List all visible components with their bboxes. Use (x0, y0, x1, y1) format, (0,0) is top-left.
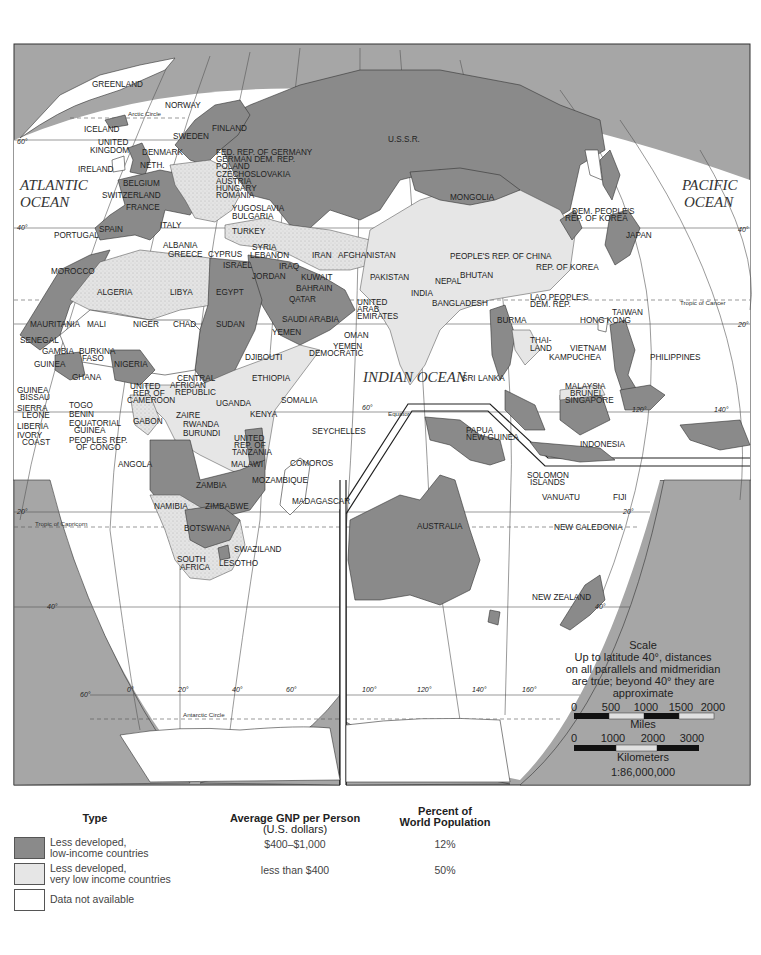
label-lebanon: LEBANON (250, 251, 289, 260)
label-mauritania: MAURITANIA (30, 320, 80, 329)
label-togo: TOGO (69, 401, 93, 410)
label-nigeria: NIGERIA (114, 360, 148, 369)
label-zambia: ZAMBIA (196, 481, 227, 490)
label-jordan: JORDAN (252, 272, 286, 281)
label-denmark: DENMARK (142, 148, 183, 157)
label-mali: MALI (87, 320, 106, 329)
label-vietnam: VIETNAM (570, 344, 607, 353)
svg-text:2000: 2000 (641, 732, 665, 744)
label-djibouti: DJIBOUTI (245, 353, 282, 362)
label-bahrain: BAHRAIN (296, 284, 332, 293)
svg-text:0: 0 (571, 701, 577, 713)
label-rwanda: RWANDA (183, 420, 219, 429)
label-laos-2: DEM. REP. (530, 300, 571, 309)
label-israel: ISRAEL (223, 261, 253, 270)
svg-text:100°: 100° (362, 686, 377, 693)
atlantic-ocean-label-2: OCEAN (20, 194, 70, 210)
label-dprk-2: REP. OF KOREA (565, 214, 628, 223)
label-zaire: ZAIRE (176, 411, 201, 420)
svg-text:1000: 1000 (601, 732, 625, 744)
legend-pop-low-income: 12% (415, 838, 475, 850)
svg-text:20°: 20° (737, 321, 749, 328)
label-kuwait: KUWAIT (301, 273, 333, 282)
legend-gnp-header: Average GNP per Person (U.S. dollars) (225, 813, 365, 835)
svg-text:40°: 40° (595, 603, 606, 610)
svg-text:140°: 140° (472, 686, 487, 693)
label-guinea-bissau-2: BISSAU (20, 393, 50, 402)
antarctic-circle-label: Antarctic Circle (183, 711, 225, 718)
label-sudan: SUDAN (216, 320, 245, 329)
label-italy: ITALY (160, 221, 182, 230)
svg-text:0: 0 (571, 732, 577, 744)
label-bhutan: BHUTAN (460, 271, 493, 280)
svg-text:500: 500 (602, 701, 620, 713)
label-liberia: LIBERIA (17, 422, 49, 431)
label-switzerland: SWITZERLAND (102, 191, 161, 200)
label-seychelles: SEYCHELLES (312, 427, 366, 436)
label-ireland: IRELAND (78, 165, 114, 174)
tropic-cancer-label: Tropic of Cancer (680, 299, 726, 306)
label-ghana: GHANA (72, 373, 102, 382)
svg-text:40°: 40° (232, 686, 243, 693)
label-png-2: NEW GUINEA (466, 433, 519, 442)
legend-label-no-data: Data not available (50, 894, 134, 905)
label-turkey: TURKEY (232, 227, 266, 236)
legend-pop-very-low-income: 50% (415, 864, 475, 876)
label-botswana: BOTSWANA (184, 524, 231, 533)
atlantic-ocean-label-1: ATLANTIC (19, 177, 89, 193)
label-rok: REP. OF KOREA (536, 263, 599, 272)
label-belgium: BELGIUM (123, 179, 160, 188)
pacific-ocean-label-2: OCEAN (684, 194, 734, 210)
label-malawi: MALAWI (231, 460, 263, 469)
svg-text:0°: 0° (127, 686, 134, 693)
scale-note-4: approximate (613, 687, 674, 699)
label-morocco: MOROCCO (51, 267, 95, 276)
legend-swatch-very-low-income (14, 863, 45, 885)
label-congo-2: OF CONGO (76, 443, 121, 452)
label-comoros: COMOROS (290, 459, 334, 468)
label-lesotho: LESOTHO (219, 559, 258, 568)
label-iran: IRAN (312, 251, 332, 260)
label-pakistan: PAKISTAN (370, 273, 409, 282)
scale-note-3: are true; beyond 40° they are (572, 675, 715, 687)
legend-gnp-low-income: $400–$1,000 (255, 838, 335, 850)
svg-text:60°: 60° (362, 404, 373, 411)
label-hong-kong: HONG KONG (580, 316, 631, 325)
label-swaziland: SWAZILAND (234, 545, 282, 554)
scale-km-label: Kilometers (617, 751, 669, 763)
label-uk-2: KINGDOM (90, 146, 129, 155)
legend-label-low-income: Less developed,low-income countries (50, 837, 149, 859)
label-eq-guinea-2: GUINEA (74, 426, 106, 435)
legend-swatch-low-income (14, 837, 45, 859)
svg-text:20°: 20° (177, 686, 189, 693)
label-romania: ROMANIA (216, 191, 255, 200)
svg-text:3000: 3000 (680, 732, 704, 744)
label-ussr: U.S.S.R. (388, 135, 420, 144)
legend-label-very-low-income: Less developed,very low income countries (50, 863, 171, 885)
legend: Type Average GNP per Person (U.S. dollar… (0, 795, 761, 955)
svg-text:120°: 120° (632, 406, 647, 413)
svg-text:120°: 120° (417, 686, 432, 693)
label-france: FRANCE (126, 203, 160, 212)
svg-text:40°: 40° (47, 603, 58, 610)
legend-population-header: Percent of World Population (385, 806, 505, 828)
svg-text:2000: 2000 (701, 701, 725, 713)
svg-text:40°: 40° (738, 226, 749, 233)
label-finland: FINLAND (212, 124, 247, 133)
label-greenland: GREENLAND (92, 80, 143, 89)
label-sri-lanka: SRI LANKA (462, 374, 505, 383)
label-solomon-2: ISLANDS (530, 478, 566, 487)
label-spain: SPAIN (99, 225, 123, 234)
svg-text:60°: 60° (286, 686, 297, 693)
label-tanzania-3: TANZANIA (232, 448, 272, 457)
label-ethiopia: ETHIOPIA (252, 374, 291, 383)
label-taiwan: TAIWAN (612, 308, 643, 317)
label-philippines: PHILIPPINES (650, 353, 701, 362)
label-car-3: REPUBLIC (175, 388, 216, 397)
legend-swatch-no-data (14, 889, 45, 911)
svg-text:1000: 1000 (634, 701, 658, 713)
label-singapore: SINGAPORE (565, 396, 614, 405)
label-australia: AUSTRALIA (417, 522, 463, 531)
label-sierra-leone-2: LEONE (22, 411, 50, 420)
label-mongolia: MONGOLIA (450, 193, 495, 202)
